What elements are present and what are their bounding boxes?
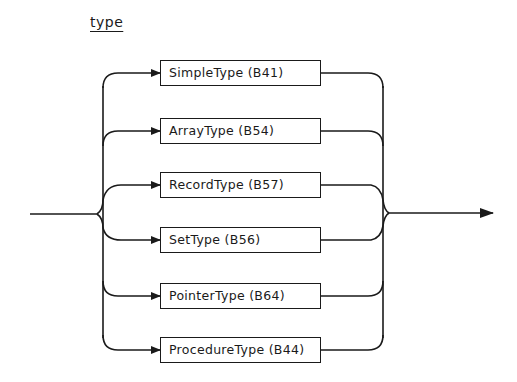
node-procedure-type: ProcedureType (B44)	[160, 337, 321, 363]
node-simple-type: SimpleType (B41)	[160, 60, 321, 86]
diagram-title: type	[90, 14, 123, 30]
node-set-type: SetType (B56)	[160, 227, 321, 253]
node-record-type: RecordType (B57)	[160, 172, 321, 198]
node-pointer-type: PointerType (B64)	[160, 283, 321, 309]
node-array-type: ArrayType (B54)	[160, 118, 321, 144]
